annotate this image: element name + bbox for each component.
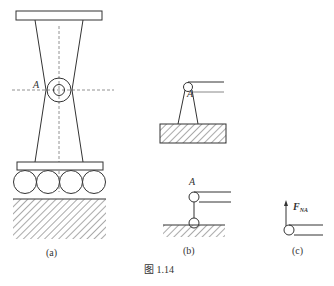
right-rod-upper: [72, 20, 83, 90]
left-rod-lower: [35, 90, 46, 162]
panel-a: A (a): [12, 11, 114, 259]
force-label: FNA: [292, 201, 308, 213]
bottom-plate: [17, 162, 103, 170]
panel-a-label: (a): [46, 247, 57, 259]
point-label-a: A: [32, 79, 40, 90]
point-label-b-lower: A: [188, 176, 196, 187]
panel-b-upper: A: [160, 82, 226, 143]
ground-b-hatch: [163, 225, 225, 237]
top-beam: [16, 11, 102, 20]
figure-canvas: A (a) A A (b) FNA (c): [0, 0, 334, 286]
panel-c: FNA (c): [284, 200, 323, 257]
panel-b-lower: A (b): [163, 176, 231, 257]
support-leg-right: [192, 90, 198, 124]
pin-b-top: [189, 192, 199, 202]
panel-b-label: (b): [183, 245, 195, 257]
roller-3: [60, 171, 83, 194]
roller-2: [37, 171, 60, 194]
base-block-hatch: [160, 124, 226, 143]
roller-1: [14, 171, 37, 194]
panel-c-label: (c): [292, 245, 303, 257]
roller-4: [83, 171, 106, 194]
pin-c: [284, 225, 294, 235]
figure-caption: 图 1.14: [144, 264, 174, 275]
force-arrow-head: [284, 200, 288, 206]
ground-hatch: [13, 199, 106, 239]
right-rod-lower: [72, 90, 83, 162]
support-leg-left: [178, 90, 185, 124]
